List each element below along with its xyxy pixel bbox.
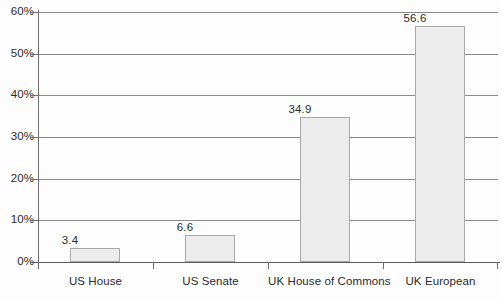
x-axis-category-label: US Senate xyxy=(153,275,268,287)
bar-value-label: 6.6 xyxy=(160,221,210,233)
y-axis-line xyxy=(38,10,39,264)
y-axis-tick-label: 10% xyxy=(0,213,34,225)
x-axis-category-label: UK House of Commons xyxy=(268,275,383,287)
y-axis-tick-label: 30% xyxy=(0,130,34,142)
bar-us-senate[interactable] xyxy=(185,235,235,263)
y-axis-tick-label: 20% xyxy=(0,172,34,184)
bar-chart: 60% 50% 40% 30% 20% 10% 0% 3.4 6.6 34.9 … xyxy=(0,0,502,298)
x-axis-category-label: UK European xyxy=(383,275,498,287)
bar-value-label: 3.4 xyxy=(45,234,95,246)
y-axis-tick-label: 0% xyxy=(0,255,34,267)
y-axis-tick-label: 60% xyxy=(0,5,34,17)
plot-area xyxy=(38,12,498,262)
bar-uk-european[interactable] xyxy=(415,26,465,262)
x-axis-tick-mark xyxy=(38,262,39,269)
bar-uk-house-of-commons[interactable] xyxy=(300,117,350,262)
bar-value-label: 56.6 xyxy=(390,12,440,24)
x-axis-tick-mark xyxy=(497,262,498,269)
y-axis-labels: 60% 50% 40% 30% 20% 10% 0% xyxy=(0,0,34,298)
x-axis-tick-mark xyxy=(268,262,269,269)
x-axis-tick-mark xyxy=(153,262,154,269)
x-axis-category-label: US House xyxy=(38,275,153,287)
x-axis-line xyxy=(30,262,500,263)
bar-us-house[interactable] xyxy=(70,248,120,262)
y-axis-tick-label: 50% xyxy=(0,47,34,59)
y-axis-tick-label: 40% xyxy=(0,88,34,100)
bar-value-label: 34.9 xyxy=(275,103,325,115)
x-axis-tick-mark xyxy=(383,262,384,269)
